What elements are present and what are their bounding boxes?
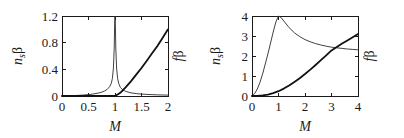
right-ytick-2: 2 [242, 49, 249, 64]
right-xtick-1: 1 [275, 99, 282, 114]
left-xtick-4: 2 [165, 99, 172, 114]
left-ytick-1: 0.4 [42, 62, 59, 77]
left-panel-svg: 0 0.4 0.8 1.2 0 0.5 1 1.5 2 M nsβ fβ [0, 0, 202, 138]
left-ytick-0: 0 [52, 89, 59, 104]
left-xtick-1: 0.5 [80, 99, 96, 114]
right-ytick-1: 1 [242, 69, 249, 84]
right-x-ticks [252, 16, 358, 96]
right-y-ticklabels: 0 1 2 3 4 [242, 9, 249, 104]
left-series-ns-beta [62, 16, 168, 96]
right-series-f-beta [252, 34, 358, 96]
left-series-f-beta [62, 29, 168, 96]
left-ytick-3: 1.2 [42, 9, 58, 24]
left-xtick-3: 1.5 [133, 99, 149, 114]
right-yaxis-beta-symbol: β [208, 47, 223, 54]
right-yaxis-title-right: fβ [362, 50, 377, 61]
right-ytick-4: 4 [242, 9, 249, 24]
right-y-ticks [252, 16, 358, 96]
left-xtick-0: 0 [59, 99, 66, 114]
right-xtick-0: 0 [249, 99, 256, 114]
right-yaxis-title-left: nsβ [208, 47, 225, 65]
right-xtick-3: 3 [328, 99, 335, 114]
right-xaxis-title: M [298, 119, 312, 134]
chart-panel-left: 0 0.4 0.8 1.2 0 0.5 1 1.5 2 M nsβ fβ [0, 0, 202, 138]
left-xaxis-title: M [108, 119, 122, 134]
right-ytick-0: 0 [242, 89, 249, 104]
left-yaxis-title-left: nsβ [10, 47, 27, 65]
right-x-ticklabels: 0 1 2 3 4 [249, 99, 362, 114]
left-xtick-2: 1 [112, 99, 119, 114]
left-x-ticklabels: 0 0.5 1 1.5 2 [59, 99, 172, 114]
right-panel-svg: 0 1 2 3 4 0 1 2 3 4 M nsβ fβ [202, 0, 404, 138]
right-ytick-3: 3 [242, 29, 249, 44]
chart-panel-right: 0 1 2 3 4 0 1 2 3 4 M nsβ fβ [202, 0, 404, 138]
figure-container: 0 0.4 0.8 1.2 0 0.5 1 1.5 2 M nsβ fβ [0, 0, 404, 138]
right-xtick-2: 2 [302, 99, 309, 114]
left-yaxis-n-symbol: n [10, 58, 25, 65]
right-yaxis-right-beta-symbol: β [362, 50, 377, 57]
left-yaxis-title-right: fβ [171, 50, 186, 61]
right-xtick-4: 4 [355, 99, 362, 114]
left-y-ticklabels: 0 0.4 0.8 1.2 [42, 9, 59, 104]
right-plot-frame [252, 16, 358, 96]
left-yaxis-right-beta-symbol: β [171, 50, 186, 57]
left-yaxis-beta-symbol: β [10, 47, 25, 54]
right-series-ns-beta [252, 16, 358, 96]
left-ytick-2: 0.8 [42, 35, 58, 50]
right-yaxis-n-symbol: n [208, 58, 223, 65]
